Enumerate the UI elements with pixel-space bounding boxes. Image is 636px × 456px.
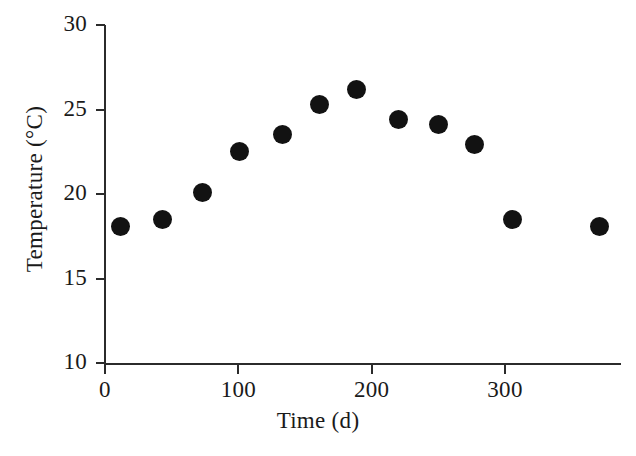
x-tick-label-0: 0 bbox=[65, 378, 145, 401]
data-point bbox=[153, 210, 172, 229]
x-tick-300 bbox=[504, 365, 506, 374]
plot-area bbox=[105, 25, 620, 364]
x-axis-line bbox=[105, 363, 621, 365]
y-tick-15 bbox=[96, 278, 105, 280]
x-tick-200 bbox=[371, 365, 373, 374]
x-axis-title: Time (d) bbox=[0, 408, 636, 434]
y-axis-title-wrap: Temperature (°C) bbox=[22, 19, 52, 359]
x-tick-label-200: 200 bbox=[332, 378, 412, 401]
x-tick-100 bbox=[237, 365, 239, 374]
y-axis-line bbox=[104, 25, 106, 365]
y-tick-25 bbox=[96, 109, 105, 111]
data-point bbox=[193, 183, 212, 202]
y-tick-10 bbox=[96, 362, 105, 364]
y-tick-20 bbox=[96, 193, 105, 195]
data-point bbox=[389, 110, 408, 129]
data-point bbox=[310, 95, 329, 114]
x-tick-0 bbox=[104, 365, 106, 374]
data-point bbox=[111, 217, 130, 236]
y-axis-title: Temperature (°C) bbox=[22, 19, 48, 359]
y-tick-30 bbox=[96, 24, 105, 26]
data-point bbox=[429, 115, 448, 134]
temperature-time-scatter-figure: 1015202530 0100200300 Temperature (°C) T… bbox=[0, 0, 636, 456]
x-tick-label-100: 100 bbox=[198, 378, 278, 401]
x-tick-label-300: 300 bbox=[465, 378, 545, 401]
data-point bbox=[590, 217, 609, 236]
